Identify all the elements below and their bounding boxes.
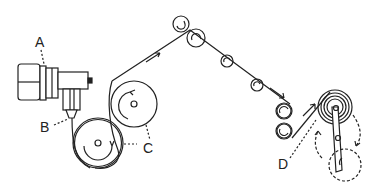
label-b: B <box>40 120 49 134</box>
drive-unit-a <box>18 64 92 118</box>
label-a: A <box>35 35 44 49</box>
transport-diagram: A B C D <box>0 0 382 189</box>
label-d: D <box>278 157 288 171</box>
label-c: C <box>143 141 153 155</box>
take-up-spool-d <box>315 90 361 181</box>
diagram-canvas <box>0 0 382 189</box>
